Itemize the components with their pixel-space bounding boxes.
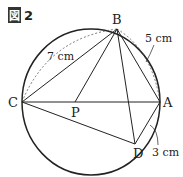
segment-pb <box>75 29 117 102</box>
measurement-ab: 5 cm <box>145 32 172 45</box>
measurement-ad: 3 cm <box>152 146 179 159</box>
point-d-label: D <box>133 146 143 161</box>
point-b-label: B <box>112 12 122 27</box>
leader-5cm <box>146 45 154 62</box>
point-p-label: P <box>71 105 80 120</box>
segment-ad <box>135 102 160 144</box>
segment-bd <box>117 29 135 144</box>
point-c-label: C <box>8 95 18 110</box>
measurement-bc: 7 cm <box>47 50 74 63</box>
leader-3cm <box>150 125 158 145</box>
point-a-label: A <box>163 95 172 110</box>
segment-cb <box>22 29 117 102</box>
